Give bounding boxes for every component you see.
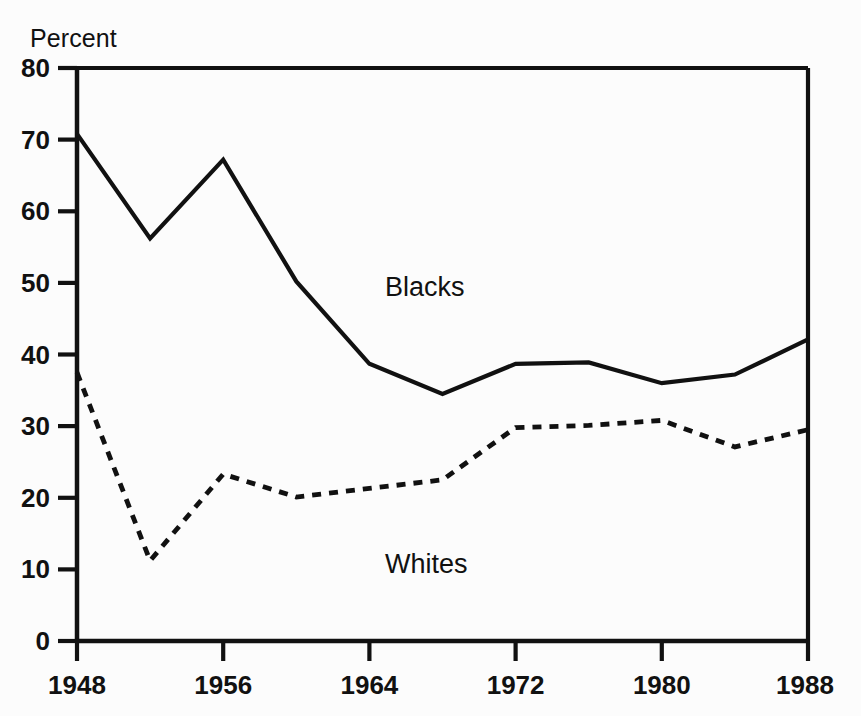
chart-figure: Percent 80 70 60 50 40 30 20 10 0 1948 1… [0,0,861,716]
x-tick-label-1988: 1988 [776,672,834,698]
x-tick-label-1956: 1956 [194,672,252,698]
y-tick-label-30: 30 [0,413,50,439]
x-tick-label-1972: 1972 [487,672,545,698]
y-axis-ticks [58,68,77,641]
chart-plot-area [0,0,861,716]
x-tick-label-1980: 1980 [633,672,691,698]
y-tick-label-50: 50 [0,270,50,296]
series-annotation-blacks: Blacks [385,274,465,301]
y-tick-label-10: 10 [0,556,50,582]
y-tick-label-0: 0 [0,628,50,654]
series-line-whites [77,372,808,560]
y-tick-label-60: 60 [0,198,50,224]
y-tick-label-40: 40 [0,342,50,368]
y-tick-label-70: 70 [0,127,50,153]
series-annotation-whites: Whites [385,551,468,578]
x-axis-ticks [77,641,808,661]
y-tick-label-80: 80 [0,55,50,81]
x-tick-label-1964: 1964 [340,672,398,698]
x-tick-label-1948: 1948 [48,672,106,698]
y-tick-label-20: 20 [0,485,50,511]
y-axis-title: Percent [30,26,117,51]
series-line-blacks [77,134,808,394]
